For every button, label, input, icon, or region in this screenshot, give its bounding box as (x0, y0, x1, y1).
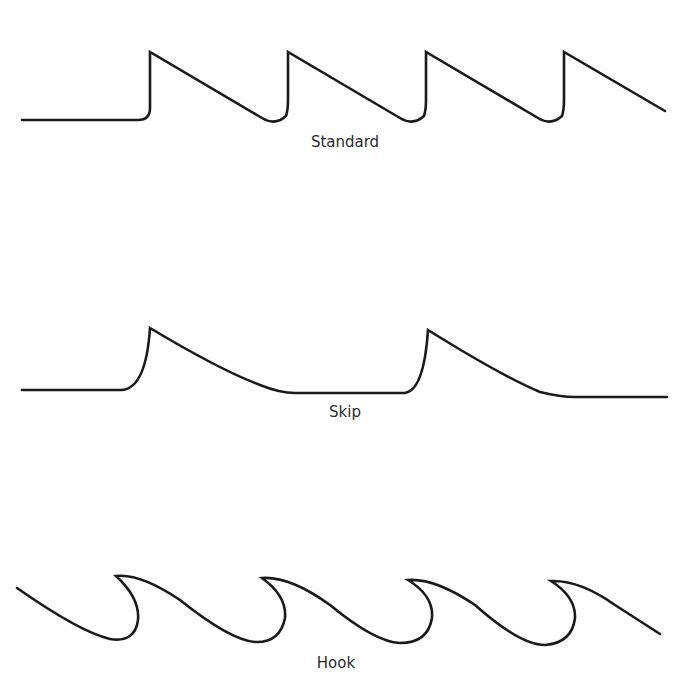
tooth-profiles-diagram (0, 0, 680, 682)
hook-tooth-profile (17, 576, 660, 645)
skip-label: Skip (329, 403, 361, 421)
hook-label: Hook (317, 654, 355, 672)
skip-tooth-profile (22, 328, 667, 397)
standard-tooth-profile (22, 52, 665, 122)
standard-label: Standard (311, 133, 379, 151)
